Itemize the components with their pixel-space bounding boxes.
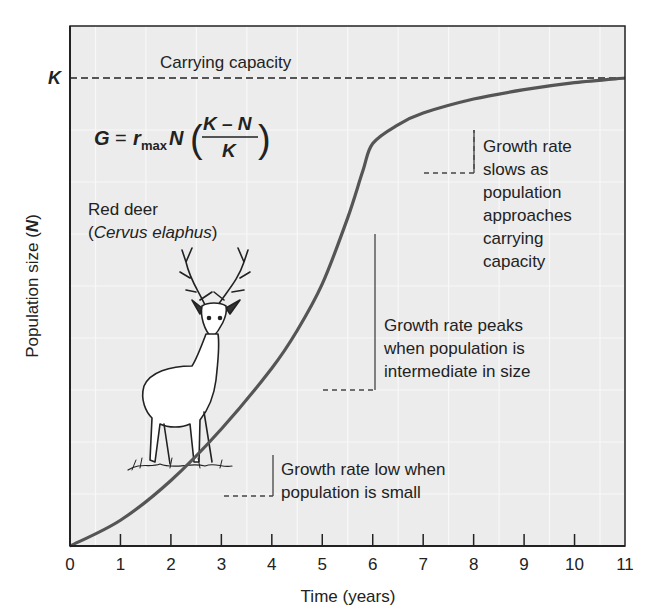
x-tick-label: 9 [519, 555, 528, 574]
svg-text:population: population [483, 183, 561, 202]
svg-text:Growth rate: Growth rate [483, 137, 572, 156]
x-tick-label: 0 [65, 555, 74, 574]
svg-text:approaches: approaches [483, 206, 572, 225]
x-tick-label: 11 [616, 555, 634, 574]
svg-text:capacity: capacity [483, 252, 546, 271]
species-common-name: Red deer [88, 200, 158, 219]
x-tick-label: 2 [166, 555, 175, 574]
svg-text:Growth rate low when: Growth rate low when [281, 460, 445, 479]
x-tick-label: 5 [318, 555, 327, 574]
svg-text:slows as: slows as [483, 160, 548, 179]
svg-text:max: max [141, 138, 168, 153]
y-axis-label: Population size (N) [23, 214, 42, 358]
svg-text:carrying: carrying [483, 229, 543, 248]
svg-text:population is small: population is small [281, 483, 421, 502]
x-tick-label: 3 [217, 555, 226, 574]
svg-text:): ) [258, 118, 271, 160]
svg-text:(: ( [190, 118, 203, 160]
annotation-peaks: Growth rate peaks when population is int… [383, 316, 530, 381]
x-tick-label: 8 [469, 555, 478, 574]
svg-text:when population is: when population is [383, 339, 525, 358]
x-tick-label: 7 [418, 555, 427, 574]
x-tick-label: 1 [116, 555, 125, 574]
x-tick-label: 6 [368, 555, 377, 574]
svg-text:N: N [169, 127, 184, 149]
svg-text:=: = [115, 127, 127, 149]
svg-text:K: K [222, 140, 237, 161]
k-axis-label: K [48, 68, 63, 88]
svg-text:K – N: K – N [203, 113, 253, 134]
svg-text:Growth rate peaks: Growth rate peaks [384, 316, 523, 335]
species-scientific-name: (Cervus elaphus) [88, 223, 217, 242]
x-tick-label: 10 [565, 555, 584, 574]
x-tick-label: 4 [267, 555, 276, 574]
carrying-capacity-label: Carrying capacity [160, 53, 292, 72]
svg-text:intermediate in size: intermediate in size [384, 362, 530, 381]
svg-text:G: G [94, 127, 110, 149]
x-axis-label: Time (years) [301, 587, 396, 606]
logistic-growth-chart: Carrying capacity K G = r max N ( K – N … [0, 0, 651, 616]
